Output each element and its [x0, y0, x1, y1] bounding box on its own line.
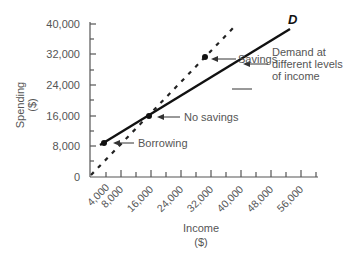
y-axis	[90, 22, 96, 177]
annotations: Borrowing No savings Savings Demand at d…	[138, 46, 343, 149]
x-tick-40000: 40,000	[214, 183, 245, 214]
x-tick-16000: 16,000	[124, 183, 155, 214]
x-axis	[90, 170, 318, 177]
x-tick-32000: 32,000	[184, 183, 215, 214]
demand-annotation-line3: of income	[272, 70, 320, 82]
y-tick-32000: 32,000	[46, 48, 80, 60]
savings-point	[202, 54, 208, 60]
demand-line	[100, 29, 290, 145]
no-savings-label: No savings	[184, 111, 239, 123]
y-tick-24000: 24,000	[46, 79, 80, 91]
x-axis-title: Income ($)	[183, 222, 219, 248]
y-tick-0: 0	[74, 171, 80, 183]
x-axis-label: Income	[183, 222, 219, 234]
y-tick-8000: 8,000	[52, 140, 80, 152]
annotation-arrows	[113, 56, 268, 146]
x-tick-48000: 48,000	[244, 183, 275, 214]
y-axis-unit: ($)	[26, 98, 38, 111]
x-axis-unit: ($)	[194, 236, 207, 248]
y-tick-labels: 40,000 32,000 24,000 16,000 8,000 0	[46, 18, 80, 183]
spending-income-chart: 40,000 32,000 24,000 16,000 8,000 0 Spen…	[0, 0, 360, 259]
y-tick-16000: 16,000	[46, 110, 80, 122]
x-tick-56000: 56,000	[274, 183, 305, 214]
no-savings-point	[146, 113, 152, 119]
demand-line-label: D	[288, 12, 298, 27]
borrowing-point	[101, 140, 107, 146]
y-axis-label: Spending	[14, 82, 26, 129]
borrowing-label: Borrowing	[138, 137, 188, 149]
x-tick-24000: 24,000	[154, 183, 185, 214]
y-tick-40000: 40,000	[46, 18, 80, 30]
demand-annotation-line2: different levels	[272, 58, 343, 70]
y-axis-title: Spending ($)	[14, 82, 38, 129]
x-tick-labels: 4,000 8,000 16,000 24,000 32,000 40,000 …	[84, 181, 305, 214]
no-savings-45-degree-line	[91, 25, 236, 175]
demand-annotation-line1: Demand at	[272, 46, 326, 58]
